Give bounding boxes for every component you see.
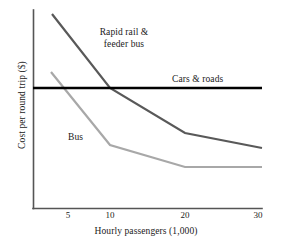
x-tick-label-30: 30 xyxy=(243,210,273,220)
annotation-rapid-rail-feeder-bus: Rapid rail & feeder bus xyxy=(86,27,162,50)
cost-per-trip-line-chart: Rapid rail & feeder bus Cars & roads Bus… xyxy=(0,0,292,246)
x-tick-label-20: 20 xyxy=(170,210,200,220)
annotation-cars-roads: Cars & roads xyxy=(172,74,223,86)
annotation-rapid-rail-line2: feeder bus xyxy=(104,39,144,49)
x-tick-label-5: 5 xyxy=(53,210,83,220)
x-tick-label-10: 10 xyxy=(95,210,125,220)
annotation-rapid-rail-line1: Rapid rail & xyxy=(100,27,149,37)
series-line-bus xyxy=(51,72,262,167)
y-axis-title: Cost per round trip ($) xyxy=(17,30,27,180)
annotation-bus: Bus xyxy=(68,132,83,144)
x-axis-title: Hourly passengers (1,000) xyxy=(0,226,292,236)
